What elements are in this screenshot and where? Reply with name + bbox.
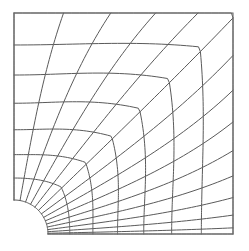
mesh-figure [0, 0, 249, 251]
plate-outer-boundary [14, 13, 233, 234]
mesh-radial-4 [47, 176, 233, 227]
mesh-radial-12 [26, 13, 111, 202]
mesh-radial-lines [14, 13, 233, 234]
mesh-radial-1 [48, 228, 233, 233]
hole-boundary-arc [14, 200, 48, 234]
mesh-radial-13 [20, 13, 64, 201]
mesh-outer-boundary [14, 13, 233, 234]
mesh-ring-7 [14, 13, 233, 234]
mesh-canvas [0, 0, 249, 251]
mesh-radial-6 [45, 122, 233, 221]
mesh-ring-6 [14, 43, 203, 234]
mesh-ring-lines [14, 13, 233, 234]
